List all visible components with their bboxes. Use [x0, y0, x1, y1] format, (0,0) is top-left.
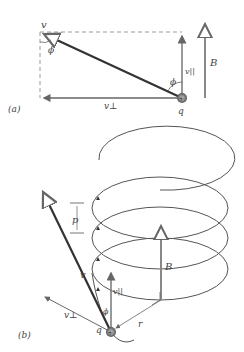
angle-label: ϕ	[103, 307, 109, 316]
charge-label: q	[96, 325, 102, 335]
v-perp-label: v⊥	[64, 310, 78, 320]
pitch-label: p	[72, 214, 79, 225]
part-b-label: (b)	[18, 330, 31, 340]
helical-motion-diagram: + v ϕ ϕ v|| v⊥ q B (a) p B r v v||	[0, 0, 244, 352]
direction-arrows	[96, 196, 100, 291]
charge-label: q	[178, 106, 184, 116]
velocity-label: v	[41, 19, 47, 30]
angle-label-top: ϕ	[48, 45, 54, 55]
angle-arc-top	[40, 40, 51, 43]
v-perp-label: v⊥	[104, 101, 118, 111]
velocity-arrow	[46, 35, 182, 98]
charge-sign: +	[179, 94, 184, 103]
velocity-label: v	[80, 269, 86, 280]
b-field-label: B	[209, 57, 217, 68]
helix	[92, 126, 235, 342]
radius-label: r	[138, 319, 143, 329]
angle-label-bottom: ϕ	[170, 77, 176, 87]
v-parallel-label: v||	[113, 287, 123, 296]
v-parallel-label: v||	[185, 67, 195, 76]
charge-sign: +	[108, 328, 113, 337]
part-a-label: (a)	[8, 104, 21, 114]
b-field-label: B	[164, 261, 172, 272]
part-b: p B r v v|| v⊥ ϕ + q (b)	[18, 126, 235, 342]
part-a: + v ϕ ϕ v|| v⊥ q B (a)	[8, 19, 217, 116]
